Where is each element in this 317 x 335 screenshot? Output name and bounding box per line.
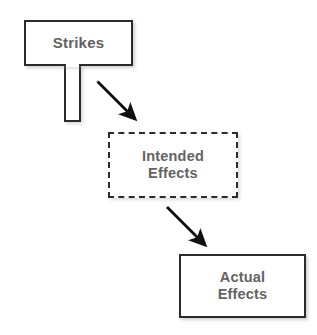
connector-intended-effects-to-actual-effects-arrow-icon [161,201,211,251]
connector-strikes-to-intended-effects-arrow-icon [92,76,140,124]
node-strikes-label: Strikes [53,34,104,52]
diagram-canvas: Strikes Intended Effects Actual Effects [0,0,317,335]
strikes-sign-post-stem [64,64,81,122]
node-intended-effects-label: Intended Effects [142,148,204,182]
strikes-sign-post-joint [66,62,79,67]
node-intended-effects[interactable]: Intended Effects [108,132,238,198]
node-strikes[interactable]: Strikes [24,20,133,66]
node-actual-effects-label: Actual Effects [218,269,268,303]
node-actual-effects[interactable]: Actual Effects [179,254,306,318]
